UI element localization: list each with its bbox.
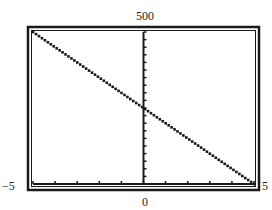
line-series-pixel — [164, 122, 167, 125]
line-series-pixel — [159, 118, 162, 121]
line-series-pixel — [147, 110, 150, 113]
line-series-pixel — [179, 132, 182, 135]
line-series-pixel — [52, 45, 55, 48]
line-series-pixel — [117, 90, 120, 93]
line-series-pixel — [235, 171, 238, 174]
line-series-pixel — [79, 63, 82, 66]
line-series-pixel — [229, 167, 232, 170]
line-series-pixel — [253, 183, 256, 186]
line-series-pixel — [55, 47, 58, 50]
line-series-pixel — [103, 79, 106, 82]
line-series-pixel — [38, 35, 41, 38]
line-series-pixel — [153, 114, 156, 117]
line-series-pixel — [173, 128, 176, 131]
line-series-pixel — [244, 177, 247, 180]
line-series-pixel — [209, 152, 212, 155]
line-series-pixel — [100, 77, 103, 80]
line-series-pixel — [135, 102, 138, 105]
line-series-pixel — [64, 53, 67, 56]
line-series-pixel — [85, 67, 88, 70]
line-series-pixel — [111, 86, 114, 89]
line-series-pixel — [67, 55, 70, 58]
line-series-pixel — [214, 156, 217, 159]
line-series-pixel — [82, 65, 85, 68]
line-series-pixel — [241, 175, 244, 178]
line-series-pixel — [94, 73, 97, 76]
line-series-pixel — [194, 142, 197, 145]
line-series-pixel — [220, 161, 223, 164]
line-series-pixel — [250, 181, 253, 184]
line-series-pixel — [150, 112, 153, 115]
line-series-pixel — [170, 126, 173, 129]
line-series-pixel — [73, 59, 76, 62]
line-series-pixel — [123, 94, 126, 97]
line-series-pixel — [212, 154, 215, 157]
line-series-pixel — [223, 163, 226, 166]
line-series-pixel — [200, 146, 203, 149]
line-series-pixel — [76, 61, 79, 64]
line-series-pixel — [41, 37, 44, 40]
line-series-pixel — [97, 75, 100, 78]
calculator-graph-screen — [0, 0, 272, 210]
line-series-pixel — [132, 100, 135, 103]
line-series-pixel — [232, 169, 235, 172]
line-series-pixel — [203, 148, 206, 151]
line-series-pixel — [191, 140, 194, 143]
line-series-pixel — [188, 138, 191, 141]
line-series-pixel — [88, 69, 91, 72]
line-series-pixel — [144, 108, 147, 111]
line-series-pixel — [247, 179, 250, 182]
line-series-pixel — [156, 116, 159, 119]
line-series-pixel — [126, 96, 129, 99]
line-series-pixel — [182, 134, 185, 137]
line-series-pixel — [61, 51, 64, 54]
line-series-pixel — [185, 136, 188, 139]
line-series-pixel — [120, 92, 123, 95]
line-series-pixel — [114, 88, 117, 91]
line-series-pixel — [108, 83, 111, 86]
line-series-pixel — [161, 120, 164, 123]
line-series-pixel — [176, 130, 179, 133]
line-series-pixel — [217, 158, 220, 161]
line-series-pixel — [44, 39, 47, 42]
line-series-pixel — [167, 124, 170, 127]
line-series-pixel — [206, 150, 209, 153]
line-series-pixel — [47, 41, 50, 44]
line-series-pixel — [226, 165, 229, 168]
line-series-pixel — [91, 71, 94, 74]
line-series-pixel — [58, 49, 61, 52]
line-series-pixel — [197, 144, 200, 147]
line-series-pixel — [35, 33, 38, 36]
line-series-pixel — [105, 81, 108, 84]
line-series-pixel — [49, 43, 52, 46]
line-series-pixel — [32, 31, 35, 34]
line-series-pixel — [141, 106, 144, 109]
line-series-pixel — [70, 57, 73, 60]
line-series-pixel — [238, 173, 241, 176]
line-series-pixel — [129, 98, 132, 101]
line-series-pixel — [138, 104, 141, 107]
